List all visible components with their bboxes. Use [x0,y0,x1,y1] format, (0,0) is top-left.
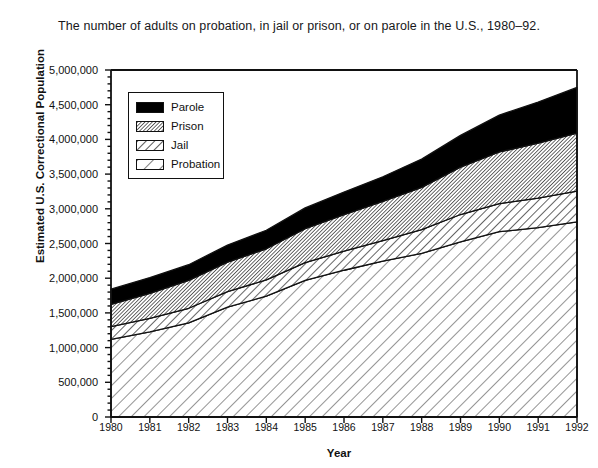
legend-swatch-prison [136,121,164,132]
legend-item-prison[interactable]: Prison [129,117,223,136]
legend-item-probation[interactable]: Probation [129,155,223,174]
legend-swatch-jail [136,140,164,151]
legend-swatch-probation [136,159,164,170]
legend-label: Parole [171,102,204,114]
legend-item-parole[interactable]: Parole [129,98,223,117]
area-chart-svg [0,0,598,468]
legend-label: Prison [171,121,204,133]
legend-swatch-parole [136,102,164,113]
legend-label: Probation [171,159,220,171]
legend-label: Jail [171,140,188,152]
chart-plot-area: Estimated U.S. Correctional Population Y… [0,0,598,468]
chart-legend: ParolePrisonJailProbation [128,92,224,179]
legend-item-jail[interactable]: Jail [129,136,223,155]
